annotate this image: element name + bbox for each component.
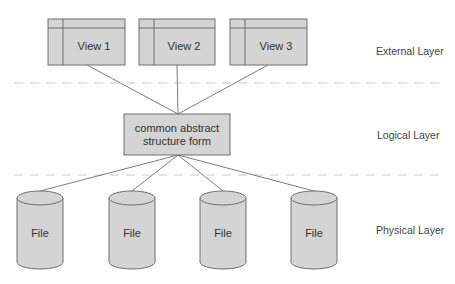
three-layer-architecture-diagram: View 1 View 2 View 3 common abstract str… bbox=[0, 0, 455, 284]
connector-file2 bbox=[132, 155, 178, 191]
cylinder-top bbox=[200, 191, 246, 205]
file-node-2: File bbox=[109, 191, 155, 269]
logical-node: common abstract structure form bbox=[124, 114, 230, 155]
connector-file4 bbox=[178, 155, 314, 191]
view-node-3: View 3 bbox=[230, 19, 307, 65]
view-label: View 3 bbox=[260, 40, 293, 52]
file-connectors bbox=[40, 155, 314, 191]
file-node-1: File bbox=[17, 191, 63, 269]
layer-label-physical: Physical Layer bbox=[376, 224, 445, 236]
connector-file3 bbox=[178, 155, 223, 191]
view-label: View 2 bbox=[168, 40, 201, 52]
cylinder-top bbox=[109, 191, 155, 205]
view-node-1: View 1 bbox=[48, 19, 125, 65]
file-node-4: File bbox=[291, 191, 337, 269]
connector-view1 bbox=[87, 65, 178, 114]
file-label: File bbox=[305, 227, 323, 239]
view-label: View 1 bbox=[78, 40, 111, 52]
file-label: File bbox=[31, 227, 49, 239]
layer-label-external: External Layer bbox=[376, 45, 444, 57]
cylinder-top bbox=[17, 191, 63, 205]
connector-view2 bbox=[177, 65, 178, 114]
connector-file1 bbox=[40, 155, 178, 191]
diagram-canvas: View 1 View 2 View 3 common abstract str… bbox=[0, 0, 455, 284]
file-label: File bbox=[123, 227, 141, 239]
cylinder-top bbox=[291, 191, 337, 205]
view-node-2: View 2 bbox=[139, 19, 215, 65]
logical-label-line1: common abstract bbox=[135, 122, 219, 134]
file-label: File bbox=[214, 227, 232, 239]
view-connectors bbox=[87, 65, 268, 114]
file-node-3: File bbox=[200, 191, 246, 269]
connector-view3 bbox=[178, 65, 268, 114]
layer-label-logical: Logical Layer bbox=[377, 129, 440, 141]
logical-label-line2: structure form bbox=[143, 135, 211, 147]
